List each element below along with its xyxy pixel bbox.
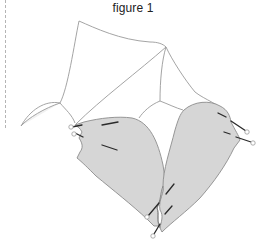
figure-illustration [0,0,266,245]
right-shaded-piece [160,102,240,232]
left-shaded-piece [75,117,165,226]
